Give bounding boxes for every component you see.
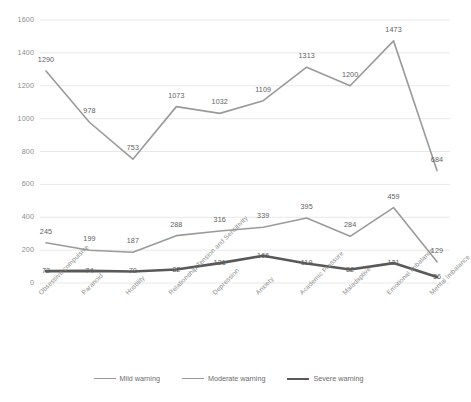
y-axis-tick-label: 800 (6, 147, 34, 156)
data-label: 187 (127, 236, 139, 245)
data-label: 1200 (342, 70, 358, 79)
data-label: 72 (42, 266, 50, 275)
series-lines (46, 41, 437, 277)
data-label: 121 (214, 258, 226, 267)
data-label: 1473 (385, 25, 401, 34)
legend-label: Mild warning (120, 374, 160, 383)
data-label: 245 (40, 227, 52, 236)
data-label: 82 (172, 265, 180, 274)
data-label: 316 (214, 215, 226, 224)
y-axis-tick-label: 200 (6, 245, 34, 254)
y-axis-tick-label: 0 (6, 278, 34, 287)
data-label: 395 (301, 202, 313, 211)
legend-item[interactable]: Moderate warning (182, 374, 266, 383)
y-axis-tick-label: 1600 (6, 15, 34, 24)
legend-label: Moderate warning (208, 374, 266, 383)
data-label: 119 (301, 258, 313, 267)
data-label: 1290 (38, 55, 54, 64)
legend-swatch (287, 378, 309, 380)
y-axis-tick-label: 400 (6, 212, 34, 221)
data-label: 36 (433, 272, 441, 281)
chart-legend: Mild warningModerate warningSevere warni… (0, 374, 457, 383)
data-label: 978 (83, 106, 95, 115)
legend-item[interactable]: Severe warning (287, 374, 363, 383)
legend-label: Severe warning (313, 374, 363, 383)
legend-item[interactable]: Mild warning (94, 374, 160, 383)
data-label: 339 (257, 211, 269, 220)
legend-swatch (94, 378, 116, 379)
gridlines (40, 20, 450, 283)
data-label: 70 (129, 266, 137, 275)
y-axis-tick-label: 1400 (6, 48, 34, 57)
data-label: 199 (83, 234, 95, 243)
data-label: 121 (387, 258, 399, 267)
y-axis-tick-label: 600 (6, 179, 34, 188)
data-label: 753 (127, 143, 139, 152)
data-label: 166 (257, 251, 269, 260)
legend-swatch (182, 378, 204, 379)
data-label: 1313 (298, 51, 314, 60)
data-label: 1032 (212, 97, 228, 106)
data-label: 82 (346, 265, 354, 274)
series-line (46, 256, 437, 277)
data-label: 284 (344, 220, 356, 229)
data-label: 1109 (255, 85, 271, 94)
y-axis-tick-label: 1000 (6, 114, 34, 123)
data-label: 459 (387, 192, 399, 201)
data-label: 1073 (168, 91, 184, 100)
data-label: 288 (170, 220, 182, 229)
y-axis-tick-label: 1200 (6, 81, 34, 90)
data-label: 129 (431, 246, 443, 255)
data-label: 684 (431, 155, 443, 164)
data-label: 74 (85, 266, 93, 275)
